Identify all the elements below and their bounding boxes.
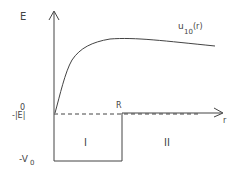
region-1-label: I (84, 137, 87, 148)
x-axis-label: r (223, 116, 227, 125)
radius-label: R (116, 101, 122, 110)
curve-label: u (178, 21, 184, 31)
energy-level-label: -|E| (12, 111, 25, 120)
curve-label-subscript: 10 (184, 28, 193, 36)
well-depth-subscript: 0 (30, 159, 34, 167)
y-axis-label: E (20, 11, 26, 22)
wavefunction-curve (55, 38, 215, 113)
region-2-label: II (164, 137, 170, 148)
well-depth-label: -V (19, 154, 29, 164)
curve-label-argument: (r) (193, 22, 203, 31)
potential-well-diagram: E r u 10 (r) 0 -|E| -V 0 R I II (0, 0, 238, 175)
